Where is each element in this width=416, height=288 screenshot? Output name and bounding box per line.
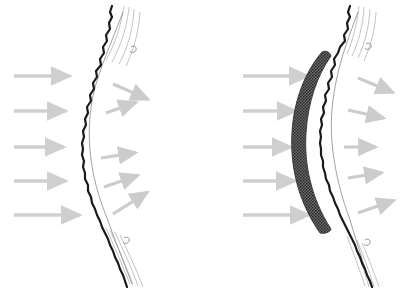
membrane-force-diagram xyxy=(0,0,416,288)
canvas-background xyxy=(0,0,416,288)
figure-root: Membrane deformation under load — normal… xyxy=(0,0,416,288)
